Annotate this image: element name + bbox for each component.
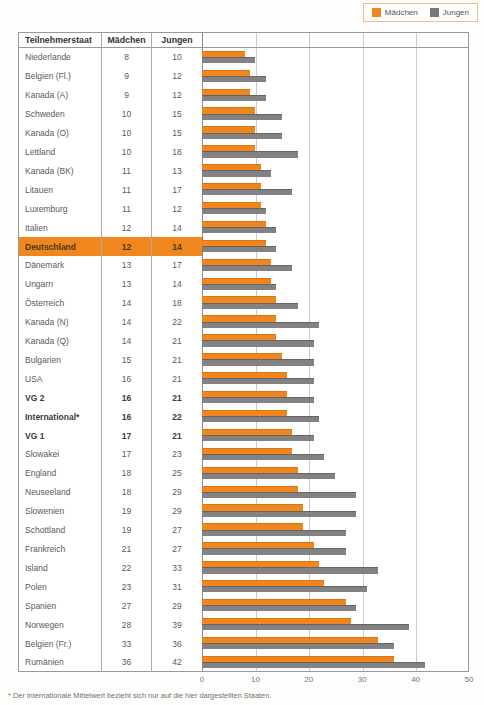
table-row: International* 16 22 [19,407,468,426]
table-row: Kanada (A) 9 12 [19,86,468,105]
country-label: Deutschland [19,237,101,256]
x-tick-50: 50 [465,675,474,684]
country-label: England [19,464,101,483]
jungen-value: 14 [151,237,202,256]
jungen-bar [202,189,292,195]
table-row: Kanada (O) 10 15 [19,124,468,143]
bar-cell [202,540,468,559]
bar-cell [202,521,468,540]
x-axis: 0 10 20 30 40 50 [202,675,469,685]
country-label: Schweden [19,105,101,124]
x-tick-20: 20 [304,675,313,684]
jungen-value: 39 [151,615,202,634]
jungen-value: 29 [151,596,202,615]
maedchen-value: 10 [101,124,151,143]
country-label: Dänemark [19,256,101,275]
jungen-bar [202,586,367,592]
jungen-value: 17 [151,256,202,275]
maedchen-value: 13 [101,275,151,294]
legend-item-maedchen: Mädchen [372,8,418,17]
country-label: Litauen [19,180,101,199]
jungen-bar [202,170,271,176]
bar-cell [202,426,468,445]
bar-cell [202,313,468,332]
jungen-bar [202,435,314,441]
legend-label-jungen: Jungen [443,8,469,17]
jungen-bar [202,473,335,479]
country-label: Bulgarien [19,351,101,370]
maedchen-value: 17 [101,445,151,464]
jungen-value: 22 [151,313,202,332]
maedchen-value: 9 [101,86,151,105]
jungen-bar [202,133,282,139]
country-label: Österreich [19,294,101,313]
jungen-value: 21 [151,332,202,351]
jungen-bar [202,416,319,422]
maedchen-value: 36 [101,653,151,672]
maedchen-value: 22 [101,558,151,577]
table-row: Niederlande 8 10 [19,48,468,67]
jungen-bar [202,114,282,120]
table-row: VG 2 16 21 [19,388,468,407]
table-row: Island 22 33 [19,558,468,577]
maedchen-value: 8 [101,48,151,67]
maedchen-value: 14 [101,313,151,332]
jungen-value: 29 [151,502,202,521]
legend-item-jungen: Jungen [430,8,469,17]
bar-cell [202,407,468,426]
x-tick-40: 40 [411,675,420,684]
jungen-bar [202,227,276,233]
table-row: Norwegen 28 39 [19,615,468,634]
country-label: Kanada (BK) [19,161,101,180]
bar-cell [202,577,468,596]
jungen-bar [202,303,298,309]
bar-cell [202,218,468,237]
maedchen-value: 14 [101,294,151,313]
maedchen-value: 14 [101,332,151,351]
jungen-bar [202,567,378,573]
jungen-value: 14 [151,218,202,237]
jungen-value: 12 [151,199,202,218]
jungen-bar [202,95,266,101]
country-label: Belgien (Fl.) [19,67,101,86]
x-tick-10: 10 [251,675,260,684]
table-row: VG 1 17 21 [19,426,468,445]
bar-cell [202,86,468,105]
table-row: Belgien (Fr.) 33 36 [19,634,468,653]
jungen-bar [202,57,255,63]
maedchen-value: 23 [101,577,151,596]
jungen-value: 21 [151,351,202,370]
maedchen-value: 27 [101,596,151,615]
maedchen-swatch-icon [372,8,381,17]
country-label: Kanada (Q) [19,332,101,351]
bar-cell [202,256,468,275]
jungen-value: 21 [151,388,202,407]
jungen-value: 21 [151,369,202,388]
jungen-value: 23 [151,445,202,464]
country-label: Lettland [19,143,101,162]
jungen-bar [202,492,356,498]
country-label: Slowenien [19,502,101,521]
bar-cell [202,445,468,464]
maedchen-value: 12 [101,218,151,237]
jungen-value: 17 [151,180,202,199]
jungen-bar [202,359,314,365]
bar-cell [202,388,468,407]
bar-cell [202,199,468,218]
jungen-value: 29 [151,483,202,502]
bar-cell [202,351,468,370]
bar-cell [202,275,468,294]
maedchen-value: 18 [101,464,151,483]
country-label: Kanada (A) [19,86,101,105]
table-row: Bulgarien 15 21 [19,351,468,370]
jungen-bar [202,322,319,328]
bar-cell [202,653,468,672]
jungen-value: 27 [151,521,202,540]
legend: Mädchen Jungen [363,3,478,22]
jungen-value: 21 [151,426,202,445]
jungen-bar [202,76,266,82]
country-label: Italien [19,218,101,237]
maedchen-value: 15 [101,351,151,370]
x-tick-0: 0 [200,675,204,684]
chart-table-frame: Teilnehmerstaat Mädchen Jungen Niederlan… [18,32,469,672]
